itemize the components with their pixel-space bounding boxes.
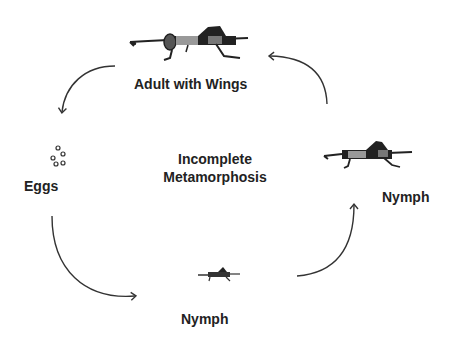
stage-label-nymph-large: Nymph: [382, 189, 429, 205]
title-line-1: Incomplete: [140, 150, 290, 168]
stage-label-nymph-small: Nymph: [181, 311, 228, 327]
eggs-icon: [51, 146, 65, 166]
adult-grasshopper-icon: [130, 26, 248, 60]
large-nymph-icon: [324, 141, 412, 168]
stage-label-eggs: Eggs: [24, 178, 58, 194]
stage-label-adult: Adult with Wings: [134, 76, 247, 92]
diagram-title: Incomplete Metamorphosis: [140, 150, 290, 186]
arrow-nymph-to-nymph: [297, 205, 354, 276]
small-nymph-icon: [198, 267, 240, 281]
title-line-2: Metamorphosis: [140, 168, 290, 186]
arrow-eggs-to-nymph: [52, 216, 135, 296]
arrow-nymph-to-adult: [270, 56, 327, 104]
arrow-adult-to-eggs: [62, 66, 115, 112]
